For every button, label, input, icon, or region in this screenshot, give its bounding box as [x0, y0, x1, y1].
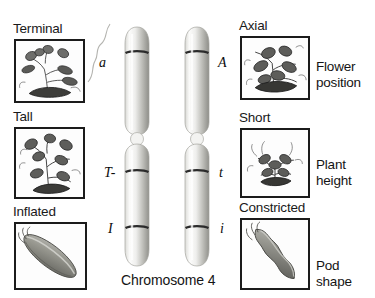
terminal-flower-illustration	[14, 39, 85, 103]
chromosome-right-drawing	[179, 26, 215, 270]
trait-descriptor-pod-shape: Pod shape	[316, 258, 352, 289]
short-plant-illustration	[240, 128, 310, 198]
figure-caption: Chromosome 4	[121, 272, 216, 288]
tall-plant-drawing	[16, 129, 83, 197]
allele-label-T-dominant: T-	[104, 165, 115, 181]
axial-flower-drawing	[242, 38, 308, 98]
trait-descriptor-flower-position-line1: Flower	[316, 59, 361, 75]
chromosome-4-homolog-left	[119, 26, 155, 270]
inflated-pod-illustration	[14, 222, 87, 290]
trait-descriptor-pod-shape-line2: shape	[316, 274, 352, 290]
constricted-pod-illustration	[240, 218, 310, 290]
pointer-line-a	[86, 22, 112, 86]
allele-label-t-recessive: t	[219, 165, 223, 181]
terminal-flower-drawing	[16, 41, 83, 101]
allele-label-a-recessive: a	[99, 55, 106, 71]
trait-descriptor-plant-height-line2: height	[316, 173, 352, 189]
trait-descriptor-flower-position: Flower position	[316, 59, 361, 90]
chromosome-left-drawing	[119, 26, 155, 270]
chromosome-4-homolog-right	[179, 26, 215, 270]
allele-label-A-dominant: A	[218, 55, 227, 71]
phenotype-label-short: Short	[239, 111, 270, 125]
figure-canvas: Terminal	[0, 0, 375, 298]
phenotype-label-inflated: Inflated	[13, 205, 56, 219]
constricted-pod-drawing	[242, 220, 308, 288]
trait-descriptor-plant-height-line1: Plant	[316, 157, 352, 173]
axial-flower-illustration	[240, 36, 310, 100]
inflated-pod-drawing	[16, 224, 85, 288]
allele-label-I-dominant: I	[108, 221, 113, 237]
phenotype-label-constricted: Constricted	[239, 201, 305, 215]
trait-descriptor-flower-position-line2: position	[316, 75, 361, 91]
short-plant-drawing	[242, 130, 308, 196]
trait-descriptor-pod-shape-line1: Pod	[316, 258, 352, 274]
phenotype-label-terminal: Terminal	[13, 22, 62, 36]
allele-label-i-recessive: i	[220, 221, 224, 237]
phenotype-label-axial: Axial	[239, 19, 267, 33]
phenotype-label-tall: Tall	[13, 110, 32, 124]
tall-plant-illustration	[14, 127, 85, 199]
trait-descriptor-plant-height: Plant height	[316, 157, 352, 188]
